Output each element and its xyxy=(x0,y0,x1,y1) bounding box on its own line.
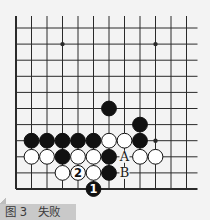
white-stone xyxy=(102,133,117,148)
move-number-label: 1 xyxy=(89,182,97,196)
black-stone xyxy=(102,149,117,164)
white-stone xyxy=(148,149,163,164)
star-point xyxy=(153,42,157,46)
black-stone xyxy=(133,133,148,148)
star-point xyxy=(60,42,64,46)
white-stone xyxy=(24,149,39,164)
move-number-label: 2 xyxy=(74,166,82,180)
black-stone xyxy=(86,133,101,148)
white-stone xyxy=(40,149,55,164)
figure-caption: 图 3 失败 xyxy=(0,204,76,220)
white-stone xyxy=(117,133,132,148)
black-stone xyxy=(40,133,55,148)
white-stone xyxy=(86,166,101,181)
black-stone xyxy=(133,117,148,132)
black-stone xyxy=(24,133,39,148)
black-stone xyxy=(102,166,117,181)
white-stone xyxy=(55,166,70,181)
white-stone xyxy=(86,149,101,164)
black-stone xyxy=(102,101,117,116)
marker-label: B xyxy=(120,165,130,180)
marker-label: A xyxy=(119,149,130,164)
black-stone xyxy=(71,133,86,148)
go-board-diagram: AB21 xyxy=(0,0,210,205)
white-stone xyxy=(133,149,148,164)
black-stone xyxy=(55,133,70,148)
star-point xyxy=(153,139,157,143)
black-stone xyxy=(55,149,70,164)
white-stone xyxy=(71,149,86,164)
